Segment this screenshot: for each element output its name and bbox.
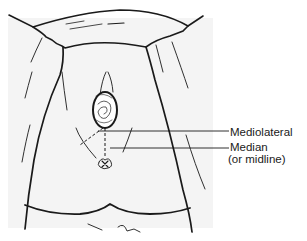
perineum-illustration — [0, 0, 307, 241]
label-mediolateral: Mediolateral — [230, 126, 293, 138]
label-median: Median — [230, 141, 268, 153]
label-median-note: (or midline) — [228, 153, 286, 165]
